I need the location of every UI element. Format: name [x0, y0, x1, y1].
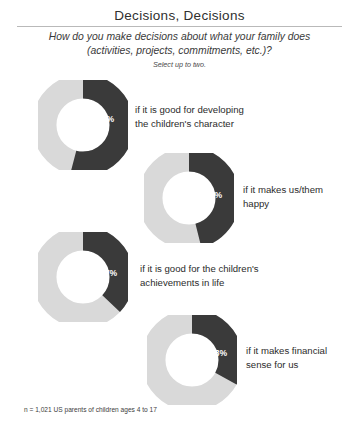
donut-3-label-line2: achievements in life [140, 277, 224, 288]
donut-2-label-line1: if it makes us/them [243, 184, 323, 195]
donut-chart-1 [38, 80, 128, 170]
title-divider [17, 26, 342, 27]
page-title: Decisions, Decisions [0, 8, 359, 23]
donut-3-text-label: if it is good for the children's achieve… [140, 262, 310, 289]
infographic-page: Decisions, Decisions How do you make dec… [0, 0, 359, 431]
donut-1-label-line2: the children's character [135, 118, 234, 129]
donut-4-svg [147, 315, 237, 405]
donut-3-label-line1: if it is good for the children's [140, 263, 259, 274]
donut-2-text-label: if it makes us/them happy [243, 183, 358, 210]
donut-1-svg [38, 80, 128, 170]
survey-instruction: Select up to two. [32, 60, 327, 69]
donut-1-percent-label: 54% [97, 114, 114, 124]
donut-1-text-label: if it is good for developing the childre… [135, 103, 305, 130]
donut-4-text-label: if it makes financial sense for us [246, 344, 358, 371]
donut-2-percent-label: 46% [205, 190, 222, 200]
donut-4-percent-label: 33% [210, 348, 227, 358]
donut-2-label-line2: happy [243, 198, 269, 209]
donut-1-label-line1: if it is good for developing [135, 104, 244, 115]
donut-4-label-line1: if it makes financial [246, 345, 327, 356]
donut-3-percent-label: 37% [100, 268, 117, 278]
donut-chart-4 [147, 315, 237, 405]
survey-question: How do you make decisions about what you… [32, 30, 327, 58]
sample-size-footnote: n = 1,021 US parents of children ages 4 … [24, 406, 157, 413]
donut-4-label-line2: sense for us [246, 359, 298, 370]
